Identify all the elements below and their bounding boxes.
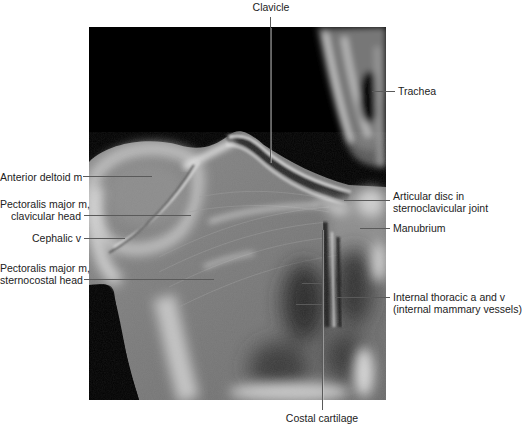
label-anterior-deltoid: Anterior deltoid m xyxy=(0,171,80,183)
label-internal-thoracic: Internal thoracic a and v (internal mamm… xyxy=(393,291,522,315)
label-pectoralis-clavicular-line1: Pectoralis major m, xyxy=(0,198,81,210)
label-cephalic-vein: Cephalic v xyxy=(0,232,81,244)
label-articular-disc-line1: Articular disc in xyxy=(393,190,488,202)
label-pectoralis-clavicular-head: Pectoralis major m, clavicular head xyxy=(0,198,81,222)
label-pectoralis-sternocostal-head: Pectoralis major m, sternocostal head xyxy=(0,262,81,286)
label-pectoralis-clavicular-line2: clavicular head xyxy=(0,210,81,222)
mri-scan-graphic xyxy=(89,27,386,400)
mri-image xyxy=(89,27,386,400)
label-trachea: Trachea xyxy=(398,85,436,97)
label-manubrium: Manubrium xyxy=(393,222,446,234)
label-articular-disc: Articular disc in sternoclavicular joint xyxy=(393,190,488,214)
label-internal-thoracic-line1: Internal thoracic a and v xyxy=(393,291,522,303)
label-costal-cartilage: Costal cartilage xyxy=(272,412,372,424)
label-clavicle: Clavicle xyxy=(244,1,298,13)
label-articular-disc-line2: sternoclavicular joint xyxy=(393,202,488,214)
label-internal-thoracic-line2: (internal mammary vessels) xyxy=(393,303,522,315)
label-pectoralis-sternocostal-line2: sternocostal head xyxy=(0,274,81,286)
label-pectoralis-sternocostal-line1: Pectoralis major m, xyxy=(0,262,81,274)
